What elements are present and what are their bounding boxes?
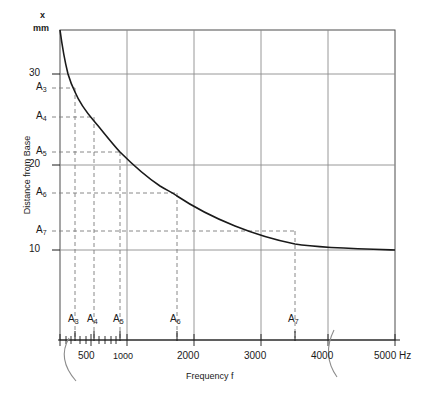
y-marker-a3: A3	[36, 81, 47, 93]
x-marker-a6: A6	[170, 313, 181, 325]
x-tick-label-1000: 1000	[113, 351, 133, 361]
y-marker-a5-letter: A	[36, 145, 43, 156]
data-curve	[60, 30, 395, 250]
x-marker-a5-letter: A	[113, 313, 120, 324]
y-axis-symbol: x	[40, 10, 45, 20]
x-marker-a7-sub: 7	[295, 318, 299, 325]
y-marker-a6-sub: 6	[43, 191, 47, 198]
x-tick-label-500: 500	[78, 350, 95, 361]
y-marker-a4: A4	[36, 110, 47, 122]
chart-figure: x mm 30 20 10 A3 A4 A5 A6 A7 Distance fr…	[0, 0, 442, 394]
y-marker-a3-letter: A	[36, 81, 43, 92]
y-marker-a6: A6	[36, 186, 47, 198]
x-tick-label-3000: 3000	[244, 350, 266, 361]
x-marker-a4-letter: A	[87, 313, 94, 324]
x-marker-a4-sub: 4	[94, 318, 98, 325]
x-marker-a6-letter: A	[170, 313, 177, 324]
x-marker-a6-sub: 6	[177, 318, 181, 325]
x-marker-a3: A3	[68, 313, 79, 325]
x-axis-title: Frequency f	[186, 371, 234, 381]
x-marker-a3-sub: 3	[75, 318, 79, 325]
y-tick-label-30: 30	[29, 67, 40, 78]
x-marker-a4: A4	[87, 313, 98, 325]
x-marker-a5: A5	[113, 313, 124, 325]
x-tick-label-2000: 2000	[177, 350, 199, 361]
y-marker-a7-sub: 7	[43, 229, 47, 236]
x-marker-a7: A7	[288, 313, 299, 325]
y-marker-a7-letter: A	[36, 224, 43, 235]
construction-lines	[52, 88, 295, 338]
plot-frame	[60, 30, 395, 340]
y-marker-a6-letter: A	[36, 186, 43, 197]
x-tick-label-4000: 4000	[311, 350, 333, 361]
y-marker-a4-sub: 4	[43, 115, 47, 122]
y-axis-unit: mm	[33, 23, 49, 33]
chart-svg	[0, 0, 442, 394]
x-tick-label-5000: 5000 Hz	[374, 350, 411, 361]
y-axis-title: Distance from Base	[22, 100, 32, 250]
x-marker-a7-letter: A	[288, 313, 295, 324]
y-marker-a7: A7	[36, 224, 47, 236]
y-marker-a3-sub: 3	[43, 86, 47, 93]
y-marker-a4-letter: A	[36, 110, 43, 121]
y-tick-marks	[52, 74, 60, 250]
x-marker-a5-sub: 5	[120, 318, 124, 325]
y-marker-a5-sub: 5	[43, 150, 47, 157]
x-marker-a3-letter: A	[68, 313, 75, 324]
y-marker-a5: A5	[36, 145, 47, 157]
